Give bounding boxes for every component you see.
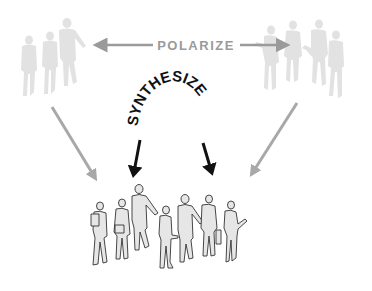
right-converge-arrow-icon (253, 103, 297, 172)
person-icon (91, 202, 107, 265)
person-icon (159, 206, 178, 268)
faded-person-icon (284, 21, 302, 83)
person-icon (132, 185, 158, 251)
right-faded-group (255, 20, 344, 99)
faded-person-icon (328, 31, 344, 99)
faded-person-icon (42, 32, 58, 95)
synthesize-left-arrow-icon (134, 140, 140, 172)
person-icon (201, 195, 221, 256)
faded-person-icon (59, 18, 86, 86)
polarize-label-group: POLARIZE (100, 38, 283, 53)
left-faded-group (21, 18, 86, 96)
polarize-synthesize-diagram: POLARIZE SYNTHESIZE (0, 0, 372, 291)
person-icon (178, 195, 203, 263)
bottom-united-group (91, 185, 247, 269)
faded-person-icon (21, 36, 37, 97)
person-icon (224, 201, 247, 262)
faded-person-icon (302, 20, 328, 87)
synthesize-right-arrow-icon (203, 143, 211, 170)
polarize-label: POLARIZE (157, 38, 235, 53)
synthesize-label: SYNTHESIZE (124, 67, 211, 127)
faded-person-icon (255, 26, 279, 91)
left-converge-arrow-icon (52, 107, 94, 176)
person-icon (114, 199, 130, 259)
